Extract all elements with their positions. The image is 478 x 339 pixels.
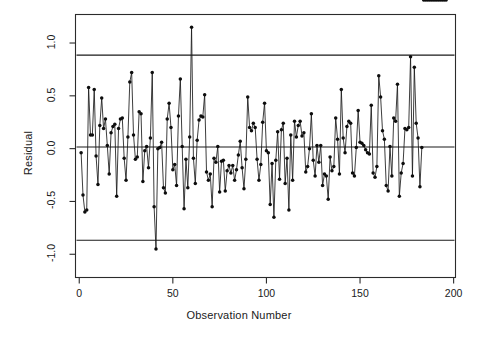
data-point [158,146,162,150]
data-point [227,164,231,168]
data-point [304,170,308,174]
data-point [160,141,164,145]
residual-series-line [81,27,422,249]
data-point [233,179,237,183]
data-point [253,126,257,129]
data-point [270,162,274,166]
data-point [392,116,396,120]
y-tick-label: -0.5 [45,185,57,215]
data-point [280,128,284,132]
data-point [96,183,100,187]
data-point [143,149,147,153]
data-point [349,122,353,126]
x-tick-label: 200 [445,287,463,299]
y-tick-label: 1.0 [45,27,57,57]
data-point [186,186,190,190]
data-point [177,114,181,118]
residual-series-points [79,0,448,251]
data-point [330,169,334,173]
x-axis-title: Observation Number [0,309,478,321]
data-point [311,159,315,163]
data-point [416,136,420,140]
data-point [263,101,267,105]
data-point [409,55,413,59]
x-tick-label: 150 [351,287,369,299]
data-point [171,168,175,172]
data-point [132,133,136,137]
data-point [364,148,368,152]
data-point [117,127,121,131]
data-point [261,120,265,124]
x-tick-label: 50 [167,287,179,299]
data-point [152,205,156,209]
data-point [224,189,228,193]
data-point [238,140,242,144]
data-point [371,171,375,175]
data-point [306,165,310,169]
data-point [285,156,289,160]
data-point [237,153,241,157]
data-point [115,194,119,198]
data-point [268,203,272,207]
data-point [126,135,130,139]
data-point [334,116,338,120]
plot-canvas [0,0,478,339]
data-point [182,207,186,211]
data-point [240,166,244,170]
data-point [205,170,209,174]
data-point [179,77,183,81]
data-point [210,205,214,209]
data-point [287,208,291,212]
data-point [87,86,91,90]
data-point [141,180,145,184]
x-tick-label: 100 [258,287,276,299]
data-point [340,88,344,92]
data-point [175,184,179,188]
data-point [373,175,377,179]
y-tick-label: 0.0 [45,133,57,163]
data-point [413,66,417,70]
data-point [267,151,271,155]
data-point [188,135,192,139]
data-point [396,82,400,86]
data-point [356,109,360,113]
data-point [92,88,96,92]
data-point [274,159,278,163]
data-point [407,126,411,129]
data-point [190,25,194,29]
data-point [394,119,398,123]
data-point [390,174,394,178]
data-point [164,191,168,195]
data-point [411,174,415,178]
data-point [308,147,312,151]
data-point [222,159,226,163]
data-point [388,145,392,149]
residual-polyline [81,27,422,249]
data-point [317,161,321,165]
x-tick-label: 0 [76,287,82,299]
data-point [319,144,323,148]
data-point [124,179,128,183]
data-point [250,129,254,133]
data-point [375,165,379,169]
data-point [343,151,347,155]
data-point [414,122,418,126]
data-point [235,168,239,172]
data-point [167,101,171,105]
data-point [203,93,207,97]
data-point [379,95,383,99]
data-point [336,137,340,141]
data-point [326,198,330,202]
data-point [295,135,299,139]
data-point [398,194,402,198]
data-point [272,216,276,220]
data-point [145,145,149,149]
y-tick-label: -1.0 [45,238,57,268]
data-point [104,117,108,121]
data-point [297,124,301,128]
data-point [418,185,422,189]
data-point [328,155,332,159]
data-point [351,171,355,175]
data-point [136,155,140,159]
data-point [298,119,302,123]
